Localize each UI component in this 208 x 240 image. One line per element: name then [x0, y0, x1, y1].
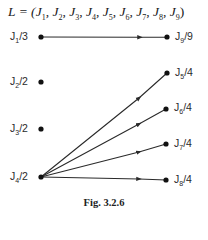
node-J1-label: J1/3	[10, 30, 28, 44]
figure-caption: Fig. 3.2.6	[0, 197, 208, 208]
edge-J4-J8	[41, 177, 166, 180]
edge-J4-J7	[41, 144, 166, 177]
node-J4-dot	[38, 174, 43, 179]
node-J8-dot	[163, 177, 168, 182]
node-J5-dot	[164, 70, 169, 75]
node-J8-label: J8/4	[174, 173, 192, 187]
edge-J4-J6	[41, 109, 166, 177]
node-J5-label: J5/4	[175, 66, 193, 80]
node-J7-label: J7/4	[174, 137, 192, 151]
node-J9-label: J9/9	[175, 30, 193, 44]
node-J1-dot	[38, 34, 43, 39]
node-J6-dot	[163, 106, 168, 111]
node-J3-label: J3/2	[10, 122, 28, 136]
node-J9-dot	[164, 34, 169, 39]
node-J2-label: J2/2	[10, 75, 28, 89]
node-J3-dot	[38, 126, 43, 131]
node-J2-dot	[38, 79, 43, 84]
node-J6-label: J6/4	[174, 101, 192, 115]
node-J4-label: J4/2	[10, 170, 28, 184]
node-J7-dot	[163, 141, 168, 146]
